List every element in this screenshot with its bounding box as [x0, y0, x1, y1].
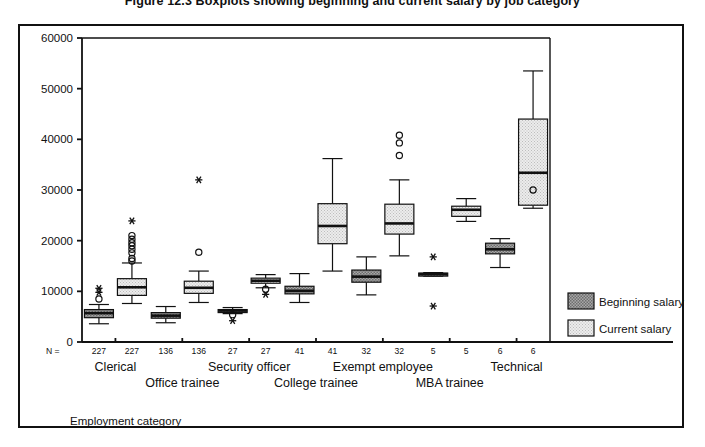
n-value-current: 41: [328, 346, 338, 356]
boxplot-svg: 0100002000030000400005000060000N =227227…: [0, 0, 705, 447]
box-current-4: [385, 204, 414, 234]
category-label-1: Office trainee: [145, 376, 219, 390]
category-label-4: Exempt employee: [333, 360, 433, 374]
box-current-4-outlier: [396, 152, 402, 158]
legend-label-current: Current salary: [599, 323, 671, 335]
box-beginning-0-outlier: [96, 296, 102, 302]
n-value-current: 5: [464, 346, 469, 356]
n-value-beginning: 227: [92, 346, 107, 356]
legend-swatch-beginning: [568, 293, 594, 309]
category-label-2: Security officer: [208, 360, 290, 374]
y-tick-label: 30000: [41, 184, 73, 196]
n-value-current: 32: [395, 346, 405, 356]
y-tick-label: 20000: [41, 235, 73, 247]
n-value-beginning: 41: [295, 346, 305, 356]
n-value-beginning: 6: [498, 346, 503, 356]
x-axis-title: Employment category: [70, 415, 181, 427]
n-value-beginning: 27: [228, 346, 238, 356]
box-current-1-outlier: [196, 249, 202, 255]
box-current-6: [519, 119, 548, 205]
n-value-beginning: 136: [159, 346, 174, 356]
category-label-6: Technical: [491, 360, 543, 374]
box-current-4-outlier: [396, 140, 402, 146]
y-tick-label: 0: [67, 336, 73, 348]
box-current-5: [452, 206, 481, 216]
category-label-3: College trainee: [274, 376, 358, 390]
n-value-current: 227: [125, 346, 140, 356]
n-value-current: 27: [261, 346, 271, 356]
legend-label-beginning: Beginning salary: [599, 296, 684, 308]
box-current-4-outlier: [396, 132, 402, 138]
y-tick-label: 50000: [41, 83, 73, 95]
plot-area: 0100002000030000400005000060000N =227227…: [41, 32, 684, 427]
y-tick-label: 60000: [41, 32, 73, 44]
y-tick-label: 40000: [41, 133, 73, 145]
box-current-3: [318, 204, 347, 244]
category-label-5: MBA trainee: [416, 376, 484, 390]
n-prefix-label: N =: [46, 346, 60, 356]
legend-swatch-current: [568, 320, 594, 336]
n-value-beginning: 32: [362, 346, 372, 356]
n-value-beginning: 5: [431, 346, 436, 356]
y-tick-label: 10000: [41, 285, 73, 297]
category-label-0: Clerical: [95, 360, 137, 374]
n-value-current: 6: [531, 346, 536, 356]
figure-container: Figure 12.3 Boxplots showing beginning a…: [0, 0, 705, 447]
n-value-current: 136: [192, 346, 207, 356]
